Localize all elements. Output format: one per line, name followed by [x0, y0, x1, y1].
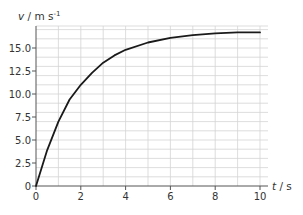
- y-tick-label: 2.5: [15, 158, 31, 169]
- x-tick-label: 10: [254, 191, 267, 202]
- x-tick-label: 4: [122, 191, 128, 202]
- y-ticks: 02.55.07.510.012.515.0: [9, 43, 36, 192]
- x-tick-label: 6: [167, 191, 173, 202]
- grid: [36, 26, 268, 186]
- x-tick-label: 0: [33, 191, 39, 202]
- y-tick-label: 10.0: [9, 89, 31, 100]
- x-tick-label: 2: [78, 191, 84, 202]
- axes: [36, 26, 268, 186]
- y-tick-label: 5.0: [15, 135, 31, 146]
- y-tick-label: 0: [25, 181, 31, 192]
- y-tick-label: 7.5: [15, 112, 31, 123]
- x-tick-label: 8: [212, 191, 218, 202]
- y-tick-label: 15.0: [9, 43, 31, 54]
- velocity-time-chart: 02.55.07.510.012.515.0 0246810 v / m s-1…: [0, 0, 303, 215]
- y-tick-label: 12.5: [9, 66, 31, 77]
- y-axis-title: v / m s-1: [18, 10, 60, 22]
- x-axis-title: t / s: [272, 180, 292, 192]
- x-ticks: 0246810: [33, 186, 267, 202]
